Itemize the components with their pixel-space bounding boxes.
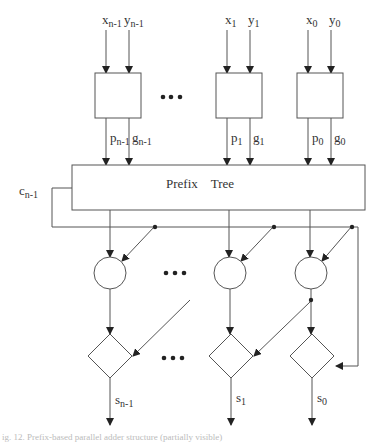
carry-out-label: cn-1	[19, 184, 38, 200]
pg-box-n-1	[95, 73, 141, 118]
input-label-y-0: y0	[329, 13, 341, 29]
xor-circle-n-1	[94, 257, 126, 289]
mux-diamond-0	[290, 334, 334, 378]
xor-circle-0	[295, 257, 327, 289]
xor-circle-1	[214, 257, 246, 289]
mux-diamond-1	[209, 334, 253, 378]
label-p-1: p1	[231, 131, 243, 147]
input-label-y-1: y1	[248, 13, 260, 29]
input-label-x-1: x1	[225, 13, 237, 29]
label-p-n-1: pn-1	[110, 131, 130, 147]
ellipsis-dots	[161, 95, 187, 361]
input-label-x-n-1: xn-1	[102, 13, 122, 29]
label-g-1: g1	[253, 131, 265, 147]
prefix-adder-diagram	[0, 0, 382, 442]
label-g-n-1: gn-1	[132, 131, 152, 147]
sum-label-0: s0	[317, 391, 327, 407]
input-arrows	[106, 30, 331, 73]
pg-box-1	[216, 73, 262, 118]
mux-diamond-n-1	[88, 334, 132, 378]
label-g-0: g0	[334, 131, 346, 147]
prefix-tree-label: Prefix Tree	[166, 176, 234, 192]
figure-caption: ig. 12. Prefix-based parallel adder stru…	[2, 432, 222, 442]
label-p-0: p0	[312, 131, 324, 147]
input-label-y-n-1: yn-1	[124, 13, 144, 29]
pg-box-0	[297, 73, 343, 118]
sum-label-n-1: sn-1	[115, 393, 133, 409]
sum-label-1: s1	[236, 391, 246, 407]
input-label-x-0: x0	[306, 13, 318, 29]
